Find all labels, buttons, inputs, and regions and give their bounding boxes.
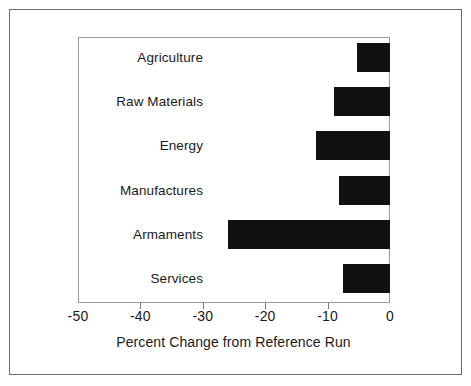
bar-chart-figure: AgricultureRaw MaterialsEnergyManufactur… <box>0 0 471 386</box>
x-axis-tick-label: 0 <box>386 308 394 324</box>
category-label: Raw Materials <box>116 87 203 116</box>
plot-area <box>78 37 390 303</box>
bar <box>357 43 390 72</box>
x-axis-tick-label: -50 <box>68 308 89 324</box>
bar <box>228 220 390 249</box>
bar <box>343 264 390 293</box>
x-axis-title: Percent Change from Reference Run <box>0 334 471 350</box>
category-label: Agriculture <box>137 43 203 72</box>
category-label: Armaments <box>133 220 203 249</box>
screenshot-root: AgricultureRaw MaterialsEnergyManufactur… <box>0 0 471 386</box>
category-label: Services <box>150 264 203 293</box>
bar <box>316 131 390 160</box>
category-label: Manufactures <box>120 176 203 205</box>
bar <box>334 87 390 116</box>
x-axis-title-text: Percent Change from Reference Run <box>116 334 350 350</box>
bar <box>339 176 390 205</box>
x-axis-tick-label: -40 <box>130 308 151 324</box>
x-axis-tick-label: -20 <box>255 308 276 324</box>
category-label: Energy <box>160 131 203 160</box>
x-axis-tick-label: -10 <box>317 308 338 324</box>
x-axis-tick-label: -30 <box>192 308 213 324</box>
